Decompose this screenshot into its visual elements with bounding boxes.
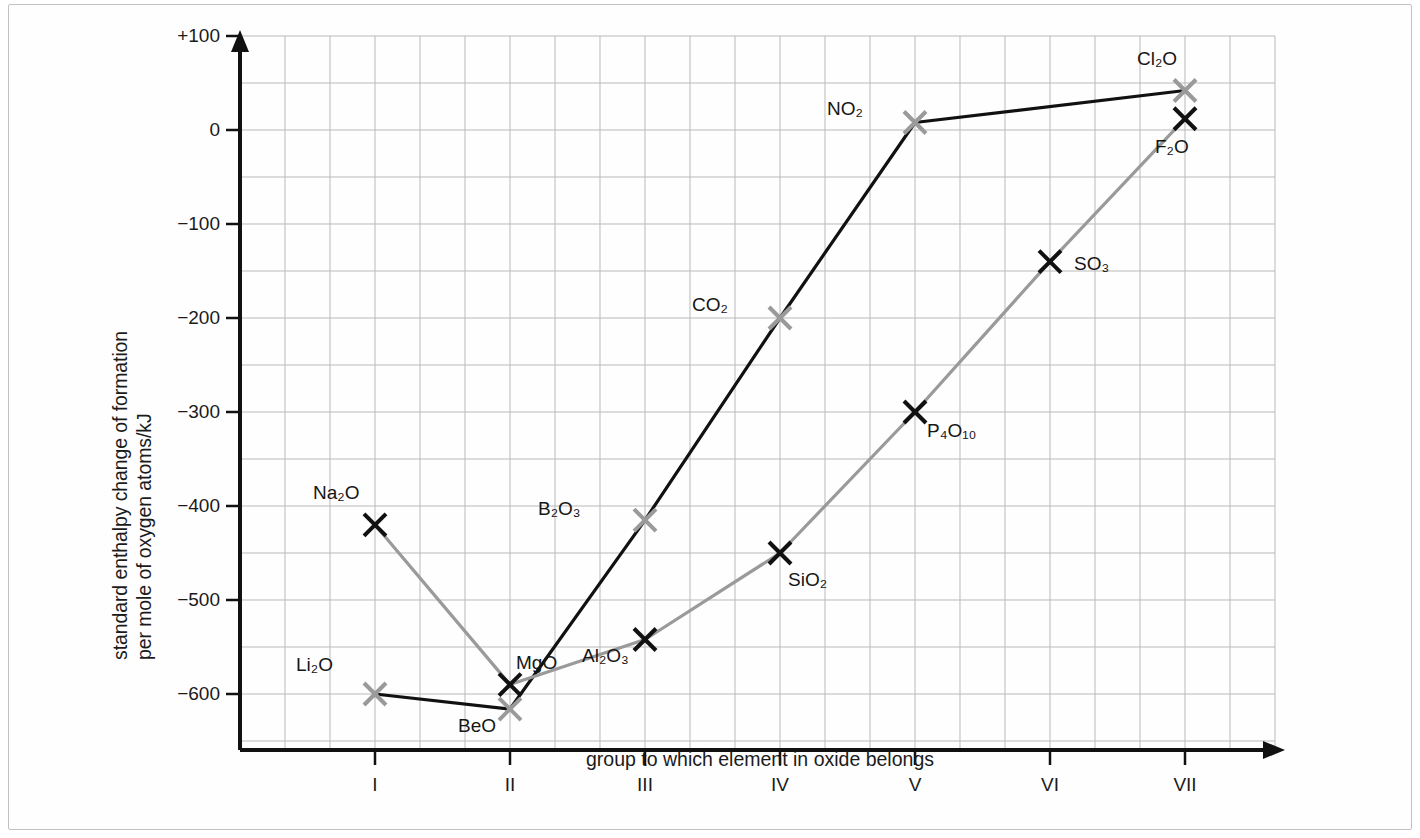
data-point-label: Al₂O₃ [582,646,629,665]
data-point-label: Cl₂O [1137,49,1177,68]
y-tick-label: −400 [120,495,220,517]
x-tick-label: I [372,774,377,796]
gridlines [240,36,1275,750]
axes [231,30,1285,759]
data-point-label: F₂O [1155,137,1189,156]
x-tick-label: II [505,774,516,796]
x-tick-label: V [909,774,922,796]
data-point-label: P₄O₁₀ [927,421,977,440]
data-point-label: CO₂ [692,295,728,314]
x-tick-label: VII [1173,774,1196,796]
data-point-label: SiO₂ [788,570,827,589]
x-tick-label: III [637,774,653,796]
figure-page: standard enthalpy change of formation pe… [0,0,1420,838]
x-tick-label: VI [1041,774,1059,796]
data-point-label: NO₂ [827,99,863,118]
x-axis-title: group to which element in oxide belongs [240,748,1280,771]
data-point-label: SO₃ [1074,254,1109,273]
y-tick-label: +100 [120,25,220,47]
y-tick-label: −100 [120,213,220,235]
x-tick-label: IV [771,774,789,796]
data-point-label: B₂O₃ [538,499,581,518]
data-point-label: BeO [458,716,496,735]
axis-ticks [226,36,1185,765]
data-point-label: Na₂O [313,483,359,502]
data-point-label: MgO [516,653,557,672]
y-tick-label: −200 [120,307,220,329]
y-tick-label: 0 [120,119,220,141]
y-tick-label: −300 [120,401,220,423]
data-point-label: Li₂O [296,655,333,674]
y-tick-label: −500 [120,589,220,611]
y-tick-label: −600 [120,683,220,705]
